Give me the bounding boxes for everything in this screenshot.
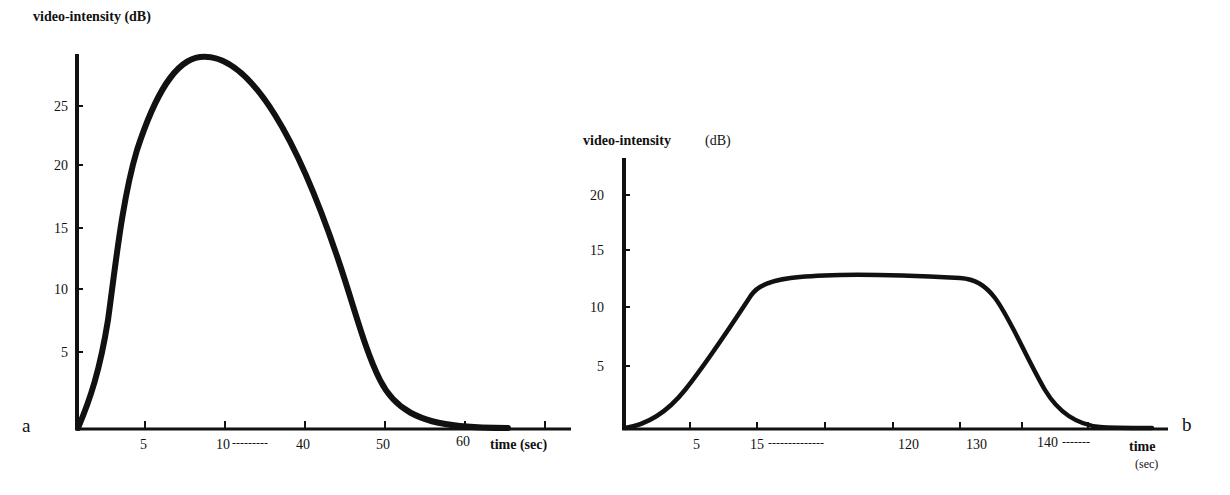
chart-a: video-intensity (dB) 25 20 15 10 5 (22, 9, 571, 453)
svg-text:120: 120 (898, 437, 919, 452)
chart-a-y-tick-labels: 25 20 15 10 5 (54, 99, 68, 360)
svg-text:10: 10 (590, 300, 604, 315)
chart-b-x-tick-labels: 5 15 -------------- 120 130 140 ------- (693, 435, 1090, 452)
chart-a-y-axis-title: video-intensity (dB) (33, 9, 151, 25)
figure-canvas: video-intensity (dB) 25 20 15 10 5 (0, 0, 1230, 495)
chart-a-x-axis-title: time (sec) (490, 437, 547, 453)
chart-a-panel-label: a (22, 415, 31, 436)
svg-text:25: 25 (54, 99, 68, 114)
svg-text:20: 20 (590, 188, 604, 203)
svg-text:5: 5 (693, 437, 700, 452)
chart-b-curve (625, 275, 1152, 428)
chart-b-x-axis-unit: (sec) (1135, 457, 1158, 471)
svg-text:5: 5 (597, 359, 604, 374)
svg-text:50: 50 (376, 437, 390, 452)
svg-text:20: 20 (54, 158, 68, 173)
chart-b-panel-label: b (1182, 414, 1192, 435)
chart-a-x-tick-labels: 5 10 --------- 40 50 60 (140, 434, 470, 452)
svg-text:140: 140 (1037, 435, 1058, 450)
svg-text:10: 10 (54, 282, 68, 297)
chart-b-y-tick-labels: 20 15 10 5 (590, 188, 604, 374)
chart-b-axis-break-1: -------------- (768, 436, 824, 450)
svg-text:15: 15 (590, 243, 604, 258)
chart-a-curve (78, 57, 508, 428)
chart-b: video-intensity (dB) 20 15 10 5 (583, 133, 1192, 471)
svg-text:5: 5 (140, 437, 147, 452)
svg-text:60: 60 (456, 434, 470, 449)
svg-text:15: 15 (54, 221, 68, 236)
svg-text:15: 15 (750, 437, 764, 452)
svg-text:10: 10 (216, 437, 230, 452)
svg-text:130: 130 (966, 437, 987, 452)
chart-b-axis-break-2: ------- (1062, 435, 1090, 449)
chart-b-y-axis-unit: (dB) (705, 133, 731, 149)
chart-b-x-axis-title: time (1129, 439, 1155, 454)
chart-a-axis-break: --------- (232, 436, 268, 450)
svg-text:5: 5 (61, 345, 68, 360)
chart-b-y-axis-title: video-intensity (583, 133, 671, 148)
svg-text:40: 40 (296, 437, 310, 452)
